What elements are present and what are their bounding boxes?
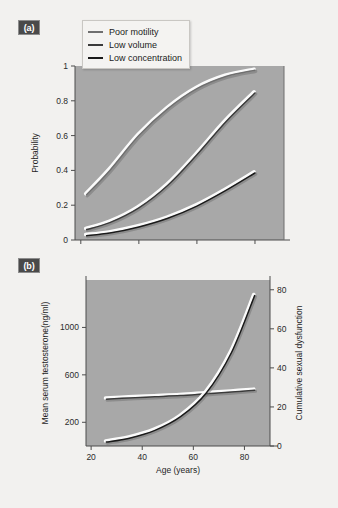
- panel-b-y-axis-title: Mean serum testosterone(ng/ml): [40, 301, 50, 424]
- panel-a-x-tick-label-1: 40: [134, 246, 144, 248]
- panel-b-y2-tick-label-0: 0: [277, 441, 282, 451]
- panel-b-y2-axis-title: Cumulative sexual dysfunction: [294, 305, 304, 420]
- panel-a-x-tick-label-3: 80: [250, 246, 260, 248]
- panel-b-label: (b): [18, 258, 40, 273]
- panel-a-y-tick-label-1: 0.2: [56, 200, 68, 210]
- panel-b-x-tick-label-1: 40: [137, 452, 147, 462]
- panel-a-legend: Poor motility Low volume Low concentrati…: [82, 20, 190, 69]
- legend-swatch-poor-motility: [88, 31, 103, 33]
- panel-b-y-tick-label-0: 200: [65, 417, 79, 427]
- panel-b-y-tick-label-2: 1000: [60, 322, 79, 332]
- legend-item-low-concentration: Low concentration: [88, 51, 182, 64]
- panel-a-y-tick-label-2: 0.4: [56, 165, 68, 175]
- panel-b-y2-tick-label-1: 20: [277, 402, 287, 412]
- panel-b-plot: 200600100002040608020406080Age (years)Me…: [8, 250, 330, 500]
- legend-item-poor-motility: Poor motility: [88, 25, 182, 38]
- panel-a-x-tick-label-0: 20: [76, 246, 86, 248]
- panel-b-x-axis-title: Age (years): [156, 465, 200, 475]
- panel-a-y-tick-label-0: 0: [63, 235, 68, 245]
- panel-a-y-tick-label-3: 0.6: [56, 131, 68, 141]
- legend-label-low-volume: Low volume: [109, 40, 157, 50]
- legend-swatch-low-volume: [88, 44, 103, 46]
- legend-label-poor-motility: Poor motility: [109, 27, 159, 37]
- panel-a: (a) 00.20.40.60.8120406080Age (years)Pro…: [8, 8, 330, 248]
- panel-b-x-tick-label-2: 60: [189, 452, 199, 462]
- panel-a-label: (a): [18, 20, 40, 35]
- panel-a-y-tick-label-4: 0.8: [56, 96, 68, 106]
- legend-label-low-concentration: Low concentration: [109, 53, 182, 63]
- panel-b-x-tick-label-3: 80: [240, 452, 250, 462]
- panel-a-y-tick-label-5: 1: [63, 61, 68, 71]
- panel-a-y-axis-title: Probability: [30, 132, 40, 172]
- panel-b-y2-tick-label-2: 40: [277, 363, 287, 373]
- panel-b-x-tick-label-0: 20: [86, 452, 96, 462]
- panel-b-y2-tick-label-3: 60: [277, 324, 287, 334]
- panel-a-x-tick-label-2: 60: [192, 246, 202, 248]
- panel-b-y-tick-label-1: 600: [65, 370, 79, 380]
- panel-b-y2-tick-label-4: 80: [277, 285, 287, 295]
- legend-swatch-low-concentration: [88, 57, 103, 59]
- figure-container: (a) 00.20.40.60.8120406080Age (years)Pro…: [0, 0, 338, 508]
- panel-b: (b) 200600100002040608020406080Age (year…: [8, 250, 330, 500]
- legend-item-low-volume: Low volume: [88, 38, 182, 51]
